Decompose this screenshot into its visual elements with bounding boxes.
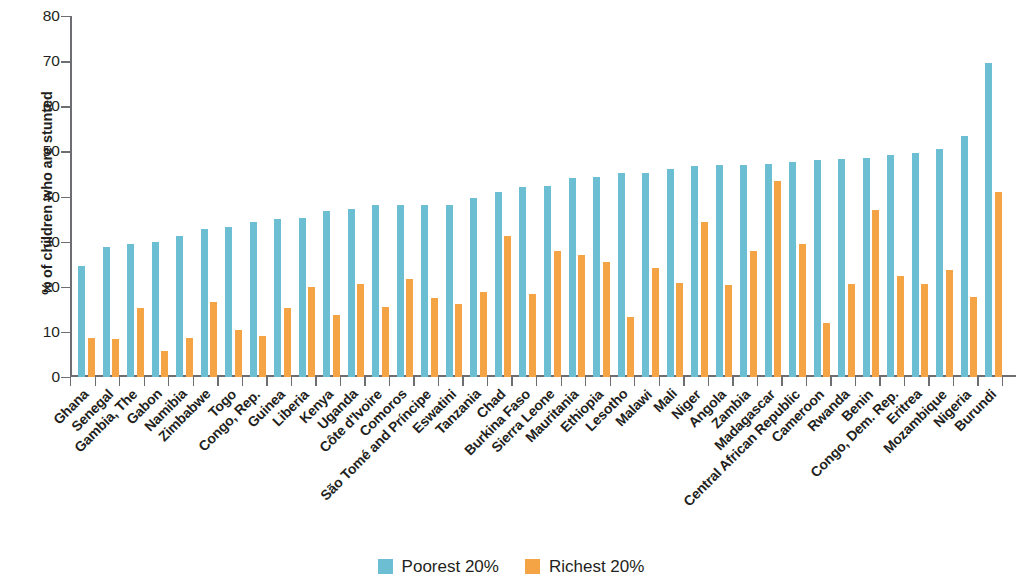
bar-richest [676, 283, 683, 377]
x-tick-mark [610, 377, 611, 386]
y-tick-mark-50 [61, 151, 70, 152]
bar-poorest [78, 266, 85, 377]
bar-richest [406, 279, 413, 377]
bar-poorest [127, 244, 134, 377]
bar-poorest [225, 227, 232, 377]
bar-group [983, 16, 1008, 377]
x-tick-mark [904, 377, 905, 386]
bar-poorest [593, 177, 600, 377]
bar-poorest [544, 186, 551, 377]
y-tick-label-10: 10 [12, 324, 60, 340]
bar-richest [88, 338, 95, 377]
x-tick-mark [757, 377, 758, 386]
x-tick-mark [536, 377, 537, 386]
bar-poorest [838, 159, 845, 377]
bar-group [689, 16, 714, 377]
bar-richest [137, 308, 144, 377]
bar-richest [848, 284, 855, 377]
bar-group [591, 16, 616, 377]
bar-poorest [887, 155, 894, 377]
bar-richest [774, 181, 781, 377]
stunting-bar-chart: % of children who are stunted 0102030405… [0, 0, 1022, 587]
bar-group [714, 16, 739, 377]
bar-richest [897, 276, 904, 377]
bar-poorest [274, 219, 281, 377]
x-tick-mark [144, 377, 145, 386]
x-axis-category-labels: GhanaSenegalGambia, TheGabonNamibiaZimba… [70, 386, 1022, 546]
bar-group [370, 16, 395, 377]
bar-richest [308, 287, 315, 377]
y-tick-label-30: 30 [12, 234, 60, 250]
bar-poorest [789, 162, 796, 377]
bar-poorest [397, 205, 404, 377]
x-tick-mark [683, 377, 684, 386]
bar-richest [872, 210, 879, 377]
bar-group [861, 16, 886, 377]
bar-poorest [201, 229, 208, 377]
x-tick-mark [364, 377, 365, 386]
x-tick-mark [487, 377, 488, 386]
bar-richest [504, 236, 511, 377]
bar-poorest [691, 166, 698, 377]
x-tick-mark [561, 377, 562, 386]
bar-poorest [765, 164, 772, 377]
bar-poorest [372, 205, 379, 377]
bar-group [836, 16, 861, 377]
bar-poorest [299, 218, 306, 377]
y-tick-label-20: 20 [12, 279, 60, 295]
bar-richest [554, 251, 561, 377]
bar-group [272, 16, 297, 377]
x-tick-mark [217, 377, 218, 386]
bar-poorest [961, 136, 968, 377]
bar-group [174, 16, 199, 377]
x-tick-mark [340, 377, 341, 386]
y-tick-label-60: 60 [12, 99, 60, 115]
bar-poorest [421, 205, 428, 377]
legend-item-poorest: Poorest 20% [378, 558, 499, 575]
bar-group [419, 16, 444, 377]
bar-richest [112, 339, 119, 377]
bar-poorest [250, 222, 257, 377]
bar-richest [603, 262, 610, 377]
legend-item-richest: Richest 20% [525, 558, 644, 575]
x-tick-mark [977, 377, 978, 386]
y-tick-label-40: 40 [12, 189, 60, 205]
legend-label: Poorest 20% [402, 558, 499, 575]
bar-group [321, 16, 346, 377]
bar-poorest [716, 165, 723, 377]
bar-group [934, 16, 959, 377]
bar-richest [652, 268, 659, 377]
bar-group [150, 16, 175, 377]
bar-poorest [176, 236, 183, 377]
bar-richest [161, 351, 168, 377]
bar-richest [529, 294, 536, 377]
bar-poorest [495, 192, 502, 377]
bar-group [738, 16, 763, 377]
bar-richest [799, 244, 806, 377]
x-tick-mark [266, 377, 267, 386]
bar-richest [259, 336, 266, 377]
bar-richest [627, 317, 634, 377]
bar-richest [725, 285, 732, 377]
x-tick-mark [95, 377, 96, 386]
y-tick-label-70: 70 [12, 53, 60, 69]
bar-group [395, 16, 420, 377]
bar-richest [946, 270, 953, 377]
bar-poorest [740, 165, 747, 377]
x-tick-mark [634, 377, 635, 386]
y-tick-label-80: 80 [12, 8, 60, 24]
bar-poorest [348, 209, 355, 377]
bar-group [223, 16, 248, 377]
x-tick-mark [830, 377, 831, 386]
bar-group [468, 16, 493, 377]
bar-poorest [863, 158, 870, 377]
bar-group [346, 16, 371, 377]
x-tick-mark [291, 377, 292, 386]
bar-group [493, 16, 518, 377]
bar-poorest [446, 205, 453, 377]
bar-group [640, 16, 665, 377]
x-tick-mark [70, 377, 71, 386]
bar-poorest [667, 169, 674, 377]
plot-area: 01020304050607080 [70, 16, 1016, 377]
bar-poorest [936, 149, 943, 377]
